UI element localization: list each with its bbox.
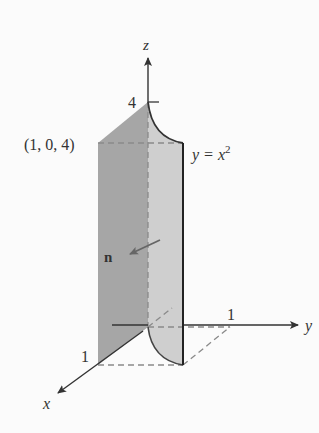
y-tick-label: 1 (227, 306, 235, 323)
x-axis-label: x (42, 395, 50, 412)
z-tick-label: 4 (128, 94, 136, 111)
z-axis-label: z (142, 37, 149, 53)
curve-equation-label: y = x2 (190, 143, 231, 164)
y-axis-label: y (303, 317, 313, 335)
x-tick-label: 1 (81, 348, 89, 365)
surface-diagram: z 4 (1, 0, 4) y = x2 n 1 y 1 x (0, 0, 319, 433)
normal-vector-label: n (104, 249, 113, 265)
point-label: (1, 0, 4) (24, 136, 75, 154)
